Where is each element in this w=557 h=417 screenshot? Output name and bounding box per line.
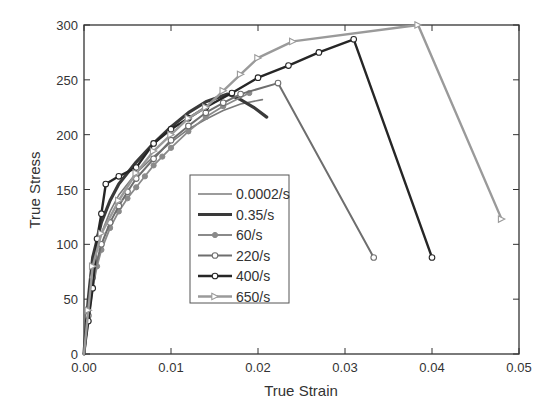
x-tick-label: 0.00: [71, 360, 96, 375]
legend-label: 400/s: [236, 268, 270, 284]
x-axis-title: True Strain: [264, 382, 338, 399]
legend-label: 60/s: [236, 227, 262, 243]
legend-label: 220/s: [236, 248, 270, 264]
y-tick-label: 150: [56, 183, 78, 198]
stress-strain-chart: 0.000.010.020.030.040.050501001502002503…: [0, 0, 557, 417]
x-tick-label: 0.03: [332, 360, 357, 375]
x-tick-label: 0.02: [245, 360, 270, 375]
y-tick-label: 200: [56, 128, 78, 143]
x-tick-label: 0.05: [506, 360, 531, 375]
y-tick-label: 0: [71, 347, 78, 362]
y-tick-label: 250: [56, 73, 78, 88]
legend-label: 0.35/s: [236, 207, 274, 223]
x-tick-label: 0.04: [419, 360, 444, 375]
legend: 0.0002/s0.35/s60/s220/s400/s650/s: [190, 175, 290, 305]
y-axis-title: True Stress: [26, 152, 43, 229]
x-tick-label: 0.01: [158, 360, 183, 375]
plot-area: [84, 25, 519, 354]
legend-label: 0.0002/s: [236, 186, 290, 202]
y-tick-label: 50: [64, 292, 78, 307]
y-tick-label: 100: [56, 237, 78, 252]
legend-label: 650/s: [236, 289, 270, 305]
y-tick-label: 300: [56, 18, 78, 33]
